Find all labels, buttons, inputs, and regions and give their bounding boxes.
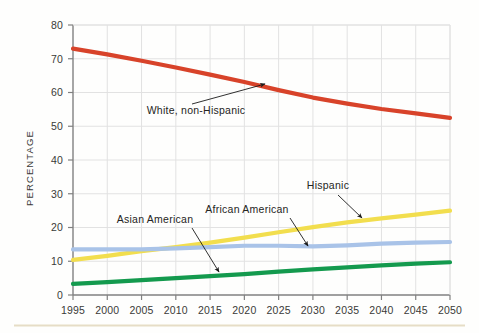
series-annotations: White, non-HispanicAsian AmericanAfrican…: [117, 84, 362, 272]
series-annotation-arrow: [192, 84, 265, 104]
x-axis-tick-labels: 1995200020052010201520202025203020352040…: [61, 304, 462, 316]
series-line: [73, 242, 450, 249]
data-series: [73, 49, 450, 284]
x-tick-label: 1995: [61, 304, 85, 316]
y-axis-title: PERCENTAGE: [24, 130, 35, 206]
series-annotation-label: Asian American: [117, 213, 193, 225]
series-line: [73, 262, 450, 284]
x-tick-label: 2045: [404, 304, 428, 316]
x-tick-label: 2005: [129, 304, 153, 316]
x-tick-label: 2025: [267, 304, 291, 316]
y-tick-label: 10: [51, 255, 63, 267]
x-tick-label: 2050: [438, 304, 462, 316]
x-tick-label: 2015: [198, 304, 222, 316]
axes: [68, 25, 450, 300]
series-annotation-arrow: [192, 228, 219, 272]
y-tick-label: 30: [51, 188, 63, 200]
line-chart: 01020304050607080 1995200020052010201520…: [0, 0, 479, 333]
x-tick-label: 2040: [369, 304, 393, 316]
y-tick-label: 70: [51, 53, 63, 65]
x-tick-label: 2035: [335, 304, 359, 316]
y-tick-label: 60: [51, 86, 63, 98]
y-tick-label: 20: [51, 221, 63, 233]
y-tick-label: 80: [51, 19, 63, 31]
y-tick-label: 0: [57, 289, 63, 301]
series-annotation-arrow: [338, 195, 362, 218]
x-tick-label: 2000: [95, 304, 119, 316]
x-tick-label: 2020: [232, 304, 256, 316]
chart-figure: 01020304050607080 1995200020052010201520…: [0, 0, 479, 333]
y-tick-label: 40: [51, 154, 63, 166]
x-tick-label: 2030: [301, 304, 325, 316]
x-tick-label: 2010: [164, 304, 188, 316]
y-axis-tick-labels: 01020304050607080: [51, 19, 63, 301]
series-annotation-label: African American: [205, 203, 288, 215]
y-tick-label: 50: [51, 120, 63, 132]
series-annotation-label: White, non-Hispanic: [147, 104, 246, 116]
series-annotation-label: Hispanic: [307, 179, 349, 191]
